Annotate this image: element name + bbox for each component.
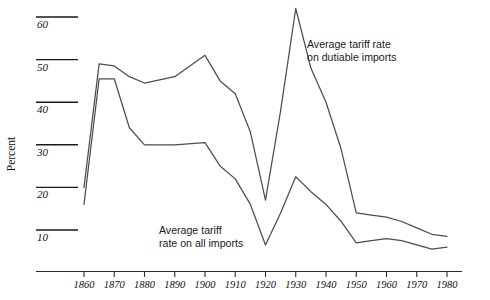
x-tick-group [84, 272, 447, 278]
series-line-all-imports [84, 79, 447, 249]
y-tick-label-40: 40 [37, 103, 48, 115]
y-tick-label-50: 50 [37, 61, 48, 73]
annotation-dutiable-line2: on dutiable imports [307, 51, 397, 64]
y-tick-label-20: 20 [37, 188, 48, 200]
y-tick-label-30: 30 [37, 146, 48, 158]
y-tick-label-10: 10 [37, 231, 48, 243]
annotation-dutiable-imports: Average tariff rate on dutiable imports [307, 38, 397, 63]
chart-figure: Percent 102030405060 1860187018801890190… [0, 0, 490, 300]
y-axis-label: Percent [5, 124, 17, 184]
annotation-all-line2: rate on all imports [159, 237, 243, 250]
chart-plot-area [0, 0, 490, 300]
x-tick-label-1980: 1980 [427, 279, 467, 290]
annotation-all-imports: Average tariff rate on all imports [159, 224, 243, 249]
annotation-dutiable-line1: Average tariff rate [307, 38, 397, 51]
annotation-all-line1: Average tariff [159, 224, 243, 237]
y-tick-label-60: 60 [37, 18, 48, 30]
